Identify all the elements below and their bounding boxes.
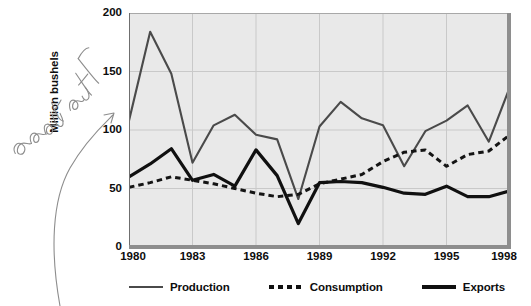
solid-thin-line-icon <box>129 282 163 293</box>
series-line-production <box>129 32 510 199</box>
data-series-lines <box>129 13 510 247</box>
plot-border-top <box>129 13 510 14</box>
x-tick-label-1992: 1992 <box>370 250 396 262</box>
chart-legend: Production Consumption Exports <box>129 279 511 295</box>
x-axis-tick-labels: 1980198319861989199219951998 <box>0 250 531 268</box>
legend-item-exports: Exports <box>422 281 505 293</box>
legend-label-exports: Exports <box>463 281 505 293</box>
solid-thick-line-icon <box>422 282 456 293</box>
legend-label-production: Production <box>170 281 230 293</box>
x-tick-label-1980: 1980 <box>120 250 146 262</box>
y-tick-label-100: 100 <box>86 124 122 136</box>
dashed-line-icon <box>269 282 303 293</box>
legend-item-consumption: Consumption <box>269 281 383 293</box>
plot-area <box>129 13 510 247</box>
x-tick-label-1986: 1986 <box>243 250 269 262</box>
y-tick-label-50: 50 <box>86 183 122 195</box>
plot-border-right <box>507 13 511 249</box>
series-line-exports <box>129 149 510 224</box>
legend-item-production: Production <box>129 281 230 293</box>
x-tick-label-1998: 1998 <box>491 250 517 262</box>
y-tick-label-150: 150 <box>86 66 122 78</box>
plot-border-bottom <box>129 245 511 249</box>
x-tick-label-1983: 1983 <box>180 250 206 262</box>
series-line-consumption <box>129 135 510 197</box>
legend-label-consumption: Consumption <box>310 281 383 293</box>
x-tick-label-1995: 1995 <box>434 250 460 262</box>
x-tick-label-1989: 1989 <box>307 250 333 262</box>
plot-border-left <box>129 13 130 247</box>
y-tick-label-200: 200 <box>86 7 122 19</box>
y-axis-title: Million bushels <box>48 22 60 162</box>
line-chart-figure: Million bushels 200150100500 19801983198… <box>0 0 531 306</box>
